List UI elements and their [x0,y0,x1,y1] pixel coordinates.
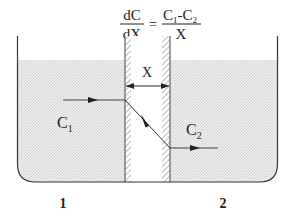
eq-rhs-denominator: X [176,26,187,42]
eq-rhs-numerator: C1-C2 [163,7,197,25]
compartment-1-label: 1 [60,196,67,211]
eq-lhs-numerator: dC [123,7,141,23]
membrane-hatch-left [125,36,131,182]
thickness-label: X [142,65,152,80]
membrane-interior [131,36,162,182]
diffusion-diagram: dC dX = C1-C2 X X C1 C2 1 2 [0,0,293,217]
eq-equals: = [149,16,157,32]
compartment-2-label: 2 [220,196,227,211]
membrane-hatch-right [162,36,170,182]
